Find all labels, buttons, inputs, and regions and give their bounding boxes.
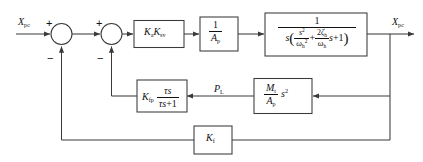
summer-2-plus-sign: + (96, 18, 102, 29)
control-block-diagram: Xpc Xpc + − + − KaKsv 1 Ap 1 s( s2 ωh2 (0, 0, 423, 162)
summer-1-plus-sign: + (46, 18, 52, 29)
load-pressure-label: PL (214, 84, 224, 94)
summer-1-minus-sign: − (47, 53, 53, 64)
load-mass-over-area-block-label: Mt Ap s2 (264, 83, 288, 106)
hydraulic-actuator-transfer-function-label: 1 s( s2 ωh2 + 2ζh ωh s+1) (278, 16, 356, 48)
output-signal-label: Xpc (392, 17, 404, 27)
position-feedback-gain-label: Kf (206, 133, 215, 143)
summer-2-minus-sign: − (97, 53, 103, 64)
amplifier-servovalve-gain-label: KaKsv (144, 27, 166, 37)
piston-area-block-label: 1 Ap (209, 20, 222, 43)
input-signal-label: Xpc (18, 17, 30, 27)
pressure-feedback-washout-filter-label: Kfp τs τs+1 (142, 86, 179, 109)
